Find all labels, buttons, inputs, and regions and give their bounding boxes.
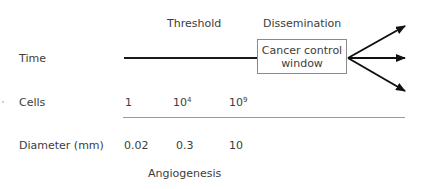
dissemination-arrows	[348, 26, 405, 91]
box-line-2: window	[262, 57, 342, 70]
cells-row-label: Cells	[19, 96, 45, 109]
threshold-label: Threshold	[167, 17, 221, 30]
cells-value-1: 1	[125, 96, 132, 109]
time-row-label: Time	[19, 52, 46, 65]
cells-value-2: 104	[173, 96, 191, 109]
diameter-row-label: Diameter (mm)	[19, 139, 104, 152]
dissemination-label: Dissemination	[263, 17, 341, 30]
box-line-1: Cancer control	[262, 44, 342, 57]
cancer-control-window-box: Cancer control window	[257, 39, 347, 74]
arrow-up-right	[348, 26, 405, 58]
diameter-value-3: 10	[229, 139, 243, 152]
diameter-value-1: 0.02	[124, 139, 149, 152]
angiogenesis-label: Angiogenesis	[148, 167, 221, 180]
edge-mark	[2, 101, 4, 103]
diameter-value-2: 0.3	[176, 139, 194, 152]
arrow-down-right	[348, 58, 405, 91]
cells-value-3: 109	[229, 96, 247, 109]
